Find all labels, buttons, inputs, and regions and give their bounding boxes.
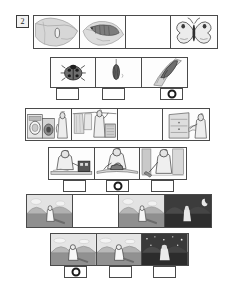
row-3-strip (25, 108, 210, 141)
sewing-machine-scene[interactable] (49, 148, 95, 179)
butterfly-art (171, 16, 217, 48)
row-2-answer-box-2[interactable] (102, 88, 125, 100)
washing-machine-scene[interactable] (26, 109, 72, 140)
ladybird-art (51, 58, 95, 87)
row-6-answer-box-1[interactable] (64, 266, 87, 278)
worksheet-page: 2 (0, 0, 232, 298)
day-hill-art (51, 234, 96, 265)
emerging-insect-art (142, 58, 187, 87)
row-5-strip (26, 194, 212, 228)
selection-ring-marker (113, 182, 122, 191)
daytime-hill-scene[interactable] (119, 195, 165, 227)
morning-hill-scene[interactable] (51, 234, 97, 265)
hanging-laundry-scene[interactable] (72, 109, 118, 140)
daytime-hill-scene[interactable] (27, 195, 73, 227)
sweeping-art (140, 148, 186, 179)
row-2-answer-box-1[interactable] (56, 88, 79, 100)
hanging-laundry-art (72, 109, 117, 140)
exercise-number-badge: 2 (16, 15, 29, 28)
caterpillar-on-leaf-art (80, 16, 125, 48)
ironing-scene[interactable] (95, 148, 141, 179)
night-hill-stars-art (142, 234, 188, 265)
leaf-with-egg-art (34, 16, 79, 48)
blank-cell[interactable] (73, 195, 118, 227)
sweeping-scene[interactable] (140, 148, 186, 179)
row-6-answer-box-3[interactable] (153, 266, 176, 278)
blank-cell[interactable] (126, 16, 171, 48)
selection-ring-marker (167, 90, 176, 99)
row-6-answer-box-2[interactable] (109, 266, 132, 278)
row-1-strip (33, 15, 218, 49)
sewing-machine-art (49, 148, 94, 179)
selection-ring-marker (71, 268, 80, 277)
pupa-hanging-illustration[interactable] (96, 58, 141, 87)
starry-night-hill-scene[interactable] (142, 234, 188, 265)
washing-machine-art (26, 109, 71, 140)
row-4-answer-box-3[interactable] (151, 180, 174, 192)
row-2-strip (50, 57, 188, 88)
row-4-strip (48, 147, 187, 180)
row-4-answer-box-2[interactable] (106, 180, 129, 192)
putting-away-clothes-scene[interactable] (163, 109, 209, 140)
row-4-answer-box-1[interactable] (63, 180, 86, 192)
night-hill-scene[interactable] (165, 195, 211, 227)
day-hill-art (97, 234, 142, 265)
day-hill-art (119, 195, 164, 227)
emerging-insect-illustration[interactable] (142, 58, 187, 87)
day-hill-art (27, 195, 72, 227)
ladybird-illustration[interactable] (51, 58, 96, 87)
putting-away-clothes-art (163, 109, 209, 140)
ironing-art (95, 148, 140, 179)
row-2-answer-box-3[interactable] (160, 88, 183, 100)
caterpillar-on-leaf-illustration[interactable] (80, 16, 126, 48)
night-hill-art (165, 195, 211, 227)
butterfly-illustration[interactable] (171, 16, 217, 48)
afternoon-hill-scene[interactable] (97, 234, 143, 265)
pupa-hanging-art (96, 58, 140, 87)
leaf-with-egg-illustration[interactable] (34, 16, 80, 48)
row-6-strip (50, 233, 189, 266)
blank-cell[interactable] (118, 109, 163, 140)
